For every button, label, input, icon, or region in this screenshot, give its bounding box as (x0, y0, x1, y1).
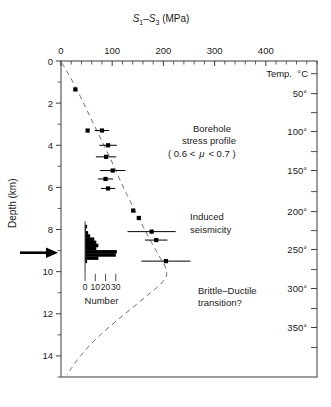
temp-axis-title: Temp. (266, 68, 292, 79)
stress-data-point (137, 216, 141, 220)
stress-data-point (103, 177, 107, 181)
depth-axis-tick-label: 14 (42, 350, 53, 361)
annotation-brittle-line1: Brittle–Ductile (198, 285, 257, 296)
depth-axis-title: Depth (km) (7, 178, 18, 227)
histogram-bar (85, 247, 96, 251)
stress-data-point (106, 186, 110, 190)
histogram-bar (85, 250, 117, 254)
histogram-tick-label: 0 (83, 282, 88, 292)
histogram-bar (85, 234, 90, 238)
stress-depth-figure: 0100200300400S1–S3 (MPa)02468101214Depth… (0, 0, 331, 407)
temp-axis-tick-label: 100° (287, 126, 307, 137)
annotation-friction-range: ( 0.6 <μ< 0.7 ) (168, 148, 236, 159)
stress-data-point (154, 238, 158, 242)
temp-axis-tick-label: 250° (287, 244, 307, 255)
histogram-bar (85, 256, 98, 260)
histogram-bar (85, 237, 94, 241)
x-axis-title: S1–S3 (MPa) (133, 13, 190, 26)
temp-axis-title-units: °C (297, 68, 308, 79)
temp-axis-tick-label: 350° (287, 322, 307, 333)
strength-envelope-curve (62, 63, 167, 375)
stress-data-point (100, 128, 104, 132)
x-axis-tick-label: 0 (58, 45, 63, 56)
stress-data-point (164, 259, 168, 263)
stress-data-point (73, 87, 77, 91)
depth-axis-tick-label: 6 (48, 182, 53, 193)
annotation-induced-line2: seismicity (190, 224, 231, 235)
stress-data-point (104, 155, 108, 159)
chart-canvas: 0100200300400S1–S3 (MPa)02468101214Depth… (0, 0, 331, 407)
stress-data-point (106, 143, 110, 147)
temp-axis-tick-label: 200° (287, 206, 307, 217)
depth-axis-tick-label: 12 (42, 308, 53, 319)
depth-marker-arrow-head (46, 248, 58, 258)
depth-axis-tick-label: 2 (48, 98, 53, 109)
temp-axis-tick-label: 150° (287, 165, 307, 176)
x-axis-tick-label: 100 (104, 45, 120, 56)
histogram-tick-label: 20 (101, 282, 111, 292)
depth-axis-tick-label: 4 (48, 140, 53, 151)
stress-data-point (131, 208, 135, 212)
stress-data-point (150, 230, 154, 234)
histogram-bar (85, 244, 98, 248)
stress-data-point (111, 168, 115, 172)
temp-axis-tick-label: 50° (293, 88, 308, 99)
x-axis-tick-label: 400 (258, 45, 274, 56)
stress-data-point (86, 128, 90, 132)
histogram-axis-title: Number (85, 295, 119, 306)
histogram-bar (85, 253, 116, 257)
depth-axis-tick-label: 0 (48, 56, 53, 67)
histogram-tick-label: 30 (111, 282, 121, 292)
plot-frame (61, 61, 317, 377)
histogram-bar (85, 241, 96, 245)
x-axis-tick-label: 200 (155, 45, 171, 56)
depth-axis-tick-label: 10 (42, 266, 53, 277)
annotation-borehole-line2: stress profile (182, 135, 236, 146)
histogram-tick-label: 10 (91, 282, 101, 292)
annotation-brittle-line2: transition? (198, 297, 242, 308)
annotation-induced-line1: Induced (190, 211, 224, 222)
annotation-borehole-line1: Borehole (193, 123, 231, 134)
temp-axis-tick-label: 300° (287, 283, 307, 294)
depth-axis-tick-label: 8 (48, 224, 53, 235)
x-axis-tick-label: 300 (207, 45, 223, 56)
